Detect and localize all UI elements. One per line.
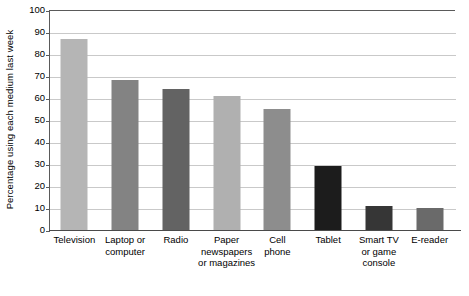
y-tick-label: 50	[34, 115, 45, 125]
y-tick-label: 60	[34, 93, 45, 103]
x-category-label-line: or game	[342, 246, 415, 258]
bar[interactable]	[416, 208, 443, 230]
bar-slot	[49, 10, 100, 230]
x-axis-line	[49, 230, 461, 231]
bar-slot	[252, 10, 303, 230]
bar[interactable]	[264, 109, 291, 230]
bar[interactable]	[365, 206, 392, 230]
bar-chart: Percentage using each medium last week 1…	[0, 0, 469, 296]
y-tick-label: 80	[34, 49, 45, 59]
x-category-label-line: or magazines	[190, 257, 263, 269]
y-axis-title-text: Percentage using each medium last week	[5, 29, 16, 209]
y-tick-label: 40	[34, 137, 45, 147]
bar[interactable]	[112, 80, 139, 230]
bar-slot	[151, 10, 202, 230]
x-category-label-line: E-reader	[393, 234, 466, 246]
bar[interactable]	[61, 39, 88, 230]
bar-slot	[100, 10, 151, 230]
bar-slot	[404, 10, 455, 230]
bar-slot	[201, 10, 252, 230]
y-tick-label: 70	[34, 71, 45, 81]
y-tick-label: 30	[34, 159, 45, 169]
bar-slot	[303, 10, 354, 230]
bar[interactable]	[315, 166, 342, 230]
y-tick-label: 20	[34, 181, 45, 191]
x-category-label-line: console	[342, 257, 415, 269]
x-category-label: E-reader	[393, 234, 466, 246]
x-axis-category-labels: TelevisionLaptop orcomputerRadioPapernew…	[49, 234, 455, 294]
bar[interactable]	[162, 89, 189, 230]
y-tick-label: 90	[34, 27, 45, 37]
y-axis-tick-labels: 1009080706050403020100	[20, 10, 49, 231]
bar[interactable]	[213, 96, 240, 230]
y-tick-label: 10	[34, 203, 45, 213]
y-axis-title: Percentage using each medium last week	[0, 0, 20, 238]
x-category-label-line: computer	[89, 246, 162, 258]
y-tick-label: 100	[29, 5, 45, 15]
bar-slot	[354, 10, 405, 230]
bars-layer	[49, 10, 455, 230]
x-category-label-line: phone	[241, 246, 314, 258]
